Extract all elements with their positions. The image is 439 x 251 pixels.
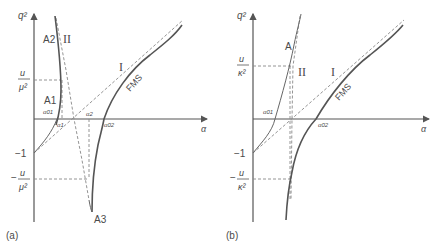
label-FMS: FMS	[333, 82, 353, 103]
alpha02-label: α02	[104, 122, 115, 128]
label-FMS: FMS	[124, 73, 144, 94]
y-axis-label: q²	[18, 10, 28, 21]
tick-neg-u-num: u	[239, 168, 244, 178]
caption-a: (a)	[6, 230, 18, 241]
caption-b: (b)	[226, 230, 238, 241]
label-II: II	[63, 32, 71, 46]
alpha2-label: α2	[86, 111, 93, 117]
label-A: A	[285, 41, 292, 52]
alpha01-label: α01	[263, 109, 273, 115]
tick-neg-u-num: u	[20, 168, 25, 178]
line-II	[56, 18, 89, 200]
curve-FMS	[286, 25, 403, 220]
label-I: I	[119, 60, 123, 74]
tick-u-den: κ²	[238, 68, 247, 78]
panel-a: q² α u μ² −1 − u μ² α01 α1 α2 α02 A2 A1 …	[6, 10, 207, 241]
alpha02-label: α02	[318, 122, 329, 128]
label-A1: A1	[44, 95, 57, 106]
label-I: I	[331, 65, 335, 79]
diagram-canvas: q² α u μ² −1 − u μ² α01 α1 α2 α02 A2 A1 …	[0, 0, 439, 251]
y-axis-label: q²	[237, 10, 247, 21]
tick-neg-sign: −	[230, 172, 236, 183]
x-axis-label: α	[201, 124, 207, 134]
line-I	[253, 20, 404, 153]
x-axis-label: α	[421, 124, 427, 134]
panel-b: q² α u κ² −1 − u κ² α01 α02 A II I FMS (…	[226, 10, 429, 241]
tick-neg-u-den: κ²	[238, 182, 247, 192]
tick-minus-one: −1	[234, 148, 246, 159]
tick-neg-sign: −	[11, 172, 17, 183]
label-A2: A2	[43, 34, 56, 45]
tick-minus-one: −1	[15, 148, 27, 159]
label-II: II	[298, 65, 306, 79]
label-A3: A3	[94, 214, 107, 225]
alpha01-label: α01	[43, 109, 53, 115]
curve-A2-A1	[55, 16, 61, 125]
tick-neg-u-den: μ²	[18, 182, 28, 192]
line-I	[34, 20, 183, 153]
tick-u-den: μ²	[18, 82, 28, 92]
tick-u-num: u	[239, 54, 244, 64]
tick-u-num: u	[20, 68, 25, 78]
alpha1-label: α1	[57, 122, 64, 128]
